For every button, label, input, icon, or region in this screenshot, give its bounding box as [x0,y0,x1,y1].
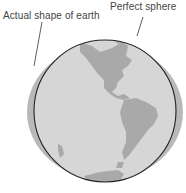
perfect-sphere-leader [137,17,143,36]
earth-shape-diagram [0,0,186,193]
actual-shape-leader [34,22,42,66]
